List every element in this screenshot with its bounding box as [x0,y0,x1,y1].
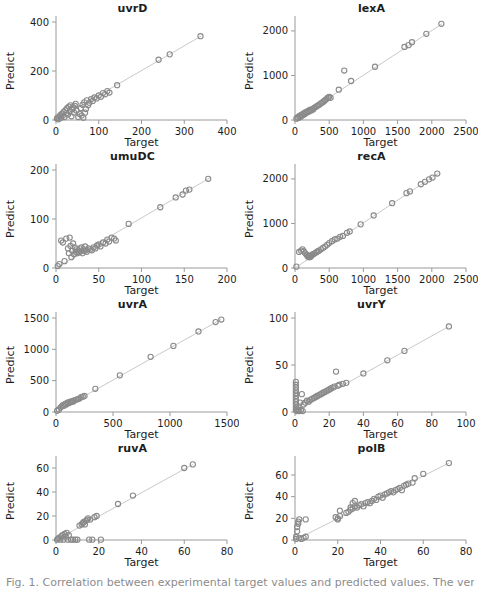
svg-text:100: 100 [269,313,288,324]
panel-umuDC: umuDC 0501001502000100200TargetPredict [0,148,239,296]
scatter-plot-lexA: 05001000150020002500010002000TargetPredi… [239,0,478,148]
scatter-plot-recA: 05001000150020002500010002000TargetPredi… [239,148,478,296]
scatter-plot-ruvA: 0204060800204060TargetPredict [0,440,239,568]
svg-text:200: 200 [30,66,49,77]
svg-text:0: 0 [282,263,288,274]
scatter-plot-uvrY: 020406080100050100TargetPredict [239,296,478,440]
svg-text:Target: Target [362,284,398,296]
svg-text:0: 0 [282,535,288,546]
svg-text:0: 0 [53,546,59,557]
panel-recA: recA 05001000150020002500010002000Target… [239,148,478,296]
svg-text:Predict: Predict [4,199,17,238]
scatter-plot-umuDC: 0501001502000100200TargetPredict [0,148,239,296]
svg-text:2500: 2500 [453,126,478,137]
svg-text:80: 80 [221,546,234,557]
figure-caption-band: Fig. 1. Correlation between experimental… [0,568,478,592]
svg-text:0: 0 [292,274,298,285]
panel-grid: uvrD 01002003004000200400TargetPredict l… [0,0,478,568]
svg-text:1000: 1000 [263,218,288,229]
svg-text:1500: 1500 [24,313,49,324]
svg-text:Target: Target [123,136,159,148]
svg-text:0: 0 [53,126,59,137]
svg-text:1500: 1500 [214,418,239,429]
svg-text:20: 20 [331,546,344,557]
svg-text:20: 20 [36,511,49,522]
svg-text:0: 0 [43,263,49,274]
svg-text:2000: 2000 [263,25,288,36]
svg-text:Target: Target [362,428,398,440]
svg-text:Target: Target [123,284,159,296]
svg-text:50: 50 [92,274,105,285]
svg-text:400: 400 [217,126,236,137]
svg-text:0: 0 [292,126,298,137]
svg-text:20: 20 [275,513,288,524]
svg-text:0: 0 [53,418,59,429]
svg-text:20: 20 [92,546,105,557]
svg-text:100: 100 [30,214,49,225]
panel-ruvA: ruvA 0204060800204060TargetPredict [0,440,239,568]
svg-text:0: 0 [282,115,288,126]
svg-text:Target: Target [123,428,159,440]
svg-text:200: 200 [30,165,49,176]
panel-uvrD: uvrD 01002003004000200400TargetPredict [0,0,239,148]
svg-text:2000: 2000 [263,173,288,184]
svg-text:0: 0 [53,274,59,285]
svg-text:150: 150 [175,274,194,285]
svg-text:60: 60 [178,546,191,557]
svg-text:80: 80 [425,418,438,429]
svg-text:80: 80 [460,546,473,557]
svg-text:2000: 2000 [419,126,444,137]
scatter-plot-polB: 0204060800204060TargetPredict [239,440,478,568]
svg-text:500: 500 [103,418,122,429]
svg-text:50: 50 [275,360,288,371]
svg-text:0: 0 [43,407,49,418]
svg-text:60: 60 [275,470,288,481]
svg-text:500: 500 [30,375,49,386]
scatter-plot-uvrA: 050010001500050010001500TargetPredict [0,296,239,440]
svg-text:Predict: Predict [4,345,17,384]
svg-text:40: 40 [275,491,288,502]
svg-text:1000: 1000 [263,70,288,81]
panel-uvrY: uvrY 020406080100050100TargetPredict [239,296,478,440]
svg-text:Target: Target [362,136,398,148]
svg-text:60: 60 [417,546,430,557]
svg-text:40: 40 [36,487,49,498]
panel-lexA: lexA 05001000150020002500010002000Target… [239,0,478,148]
svg-text:2500: 2500 [453,274,478,285]
figure-caption: Fig. 1. Correlation between experimental… [6,576,474,590]
svg-text:100: 100 [89,126,108,137]
svg-text:0: 0 [43,115,49,126]
svg-text:0: 0 [282,407,288,418]
svg-text:20: 20 [323,418,336,429]
svg-text:0: 0 [43,535,49,546]
svg-text:0: 0 [292,418,298,429]
svg-text:300: 300 [175,126,194,137]
svg-text:Predict: Predict [243,51,256,90]
svg-text:100: 100 [456,418,475,429]
svg-text:Predict: Predict [243,345,256,384]
svg-text:200: 200 [217,274,236,285]
svg-text:0: 0 [292,546,298,557]
svg-text:Target: Target [362,556,398,568]
svg-text:60: 60 [36,463,49,474]
scatter-plot-uvrD: 01002003004000200400TargetPredict [0,0,239,148]
svg-text:500: 500 [320,126,339,137]
figure-container: uvrD 01002003004000200400TargetPredict l… [0,0,478,592]
svg-text:Predict: Predict [4,481,17,520]
svg-text:1000: 1000 [157,418,182,429]
svg-text:Predict: Predict [243,481,256,520]
svg-text:400: 400 [30,17,49,28]
svg-text:2000: 2000 [419,274,444,285]
svg-text:1000: 1000 [24,344,49,355]
svg-text:500: 500 [320,274,339,285]
panel-polB: polB 0204060800204060TargetPredict [239,440,478,568]
panel-uvrA: uvrA 050010001500050010001500TargetPredi… [0,296,239,440]
svg-text:Predict: Predict [4,51,17,90]
svg-text:Predict: Predict [243,199,256,238]
svg-text:Target: Target [123,556,159,568]
